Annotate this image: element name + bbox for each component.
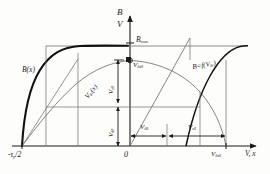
measure-vz0-vertical xyxy=(114,60,124,103)
label-v-delta-x0-axis: Vδx0 xyxy=(211,151,221,158)
label-vdelta0-vertical: Vδ0 xyxy=(108,129,115,137)
label-vdelta0-mid: Vδ0 xyxy=(140,124,148,131)
axis-lines xyxy=(12,16,256,146)
label-v-delta-x0-top: Vδx0 xyxy=(133,62,143,69)
label-vz0-vertical: Vz0 xyxy=(108,86,115,94)
label-vz0-mid: Vz0 xyxy=(188,124,196,131)
construction-lines xyxy=(46,38,226,146)
figure-canvas: B V Bmax -τp/2 0 V, x B(x) Vδx(x) Vz0 Vδ… xyxy=(0,0,270,174)
ramp-right xyxy=(130,38,190,146)
axis-label-v: V xyxy=(117,20,123,29)
axis-label-v-x: V, x xyxy=(245,150,256,158)
diagram-svg xyxy=(0,0,270,174)
axis-label-b: B xyxy=(117,8,123,17)
label-b-of-x: B(x) xyxy=(22,66,35,74)
label-tau-p-half: -τp/2 xyxy=(8,151,21,159)
axis-ticks xyxy=(22,57,226,149)
origin-label: 0 xyxy=(124,151,128,159)
label-bmax: Bmax xyxy=(136,36,148,44)
